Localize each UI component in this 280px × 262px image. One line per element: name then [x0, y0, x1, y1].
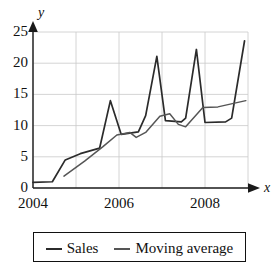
x-tick-label: 2004 [9, 196, 57, 211]
y-tick-label: 10 [0, 118, 28, 133]
series-line-2 [64, 101, 246, 177]
data-series-group [33, 41, 246, 183]
legend-swatch-icon [46, 248, 62, 250]
x-axis-arrow-icon [248, 183, 260, 193]
y-tick-label: 20 [0, 55, 28, 70]
legend-entry: Sales [46, 240, 99, 257]
x-tick-label: 2006 [95, 196, 143, 211]
legend: SalesMoving average [33, 232, 246, 262]
x-tick-label: 2008 [181, 196, 229, 211]
legend-label: Moving average [135, 240, 233, 257]
x-axis-label: x [264, 181, 270, 195]
legend-label: Sales [67, 240, 99, 257]
legend-swatch-icon [114, 248, 130, 250]
y-tick-label: 0 [0, 180, 28, 195]
series-line-1 [33, 41, 245, 183]
y-tick-label: 15 [0, 86, 28, 101]
axis-lines [28, 21, 260, 193]
gridlines [33, 32, 248, 188]
y-axis-arrow-icon [28, 21, 38, 32]
y-axis-label: y [38, 6, 44, 20]
legend-items: SalesMoving average [34, 233, 245, 261]
y-tick-label: 5 [0, 149, 28, 164]
y-tick-label: 25 [0, 24, 28, 39]
legend-entry: Moving average [114, 240, 233, 257]
